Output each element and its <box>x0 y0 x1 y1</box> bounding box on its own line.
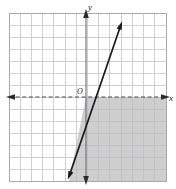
x-axis-label: x <box>168 93 173 103</box>
coordinate-plane-svg: O x y <box>0 0 176 189</box>
y-axis-label: y <box>87 2 92 12</box>
graph-figure: O x y <box>0 0 176 189</box>
shaded-solution-region <box>69 97 166 181</box>
origin-label: O <box>77 87 83 96</box>
